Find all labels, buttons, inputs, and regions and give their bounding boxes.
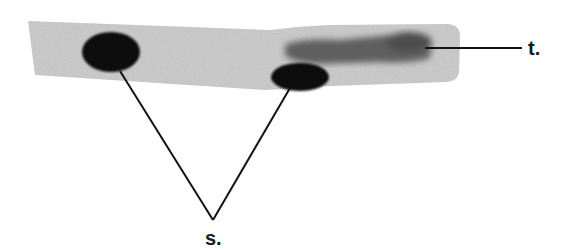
spot-right (271, 63, 329, 91)
label-spots: s. (205, 228, 222, 248)
chromatogram-diagram (0, 0, 570, 250)
leader-line-spot-left (120, 71, 213, 220)
spot-left (82, 32, 140, 72)
leader-line-spot-right (213, 88, 290, 220)
label-tail: t. (528, 38, 540, 58)
